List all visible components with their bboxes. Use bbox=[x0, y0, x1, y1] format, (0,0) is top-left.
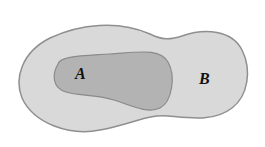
set-diagram-canvas bbox=[0, 0, 265, 147]
set-b-label: B bbox=[199, 71, 210, 87]
set-diagram: A B bbox=[0, 0, 265, 147]
set-a-label: A bbox=[75, 66, 86, 82]
